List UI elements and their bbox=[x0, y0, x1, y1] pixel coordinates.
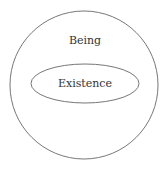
being-existence-diagram: Being Existence bbox=[0, 0, 165, 171]
existence-label: Existence bbox=[58, 77, 112, 90]
being-label: Being bbox=[69, 34, 101, 47]
